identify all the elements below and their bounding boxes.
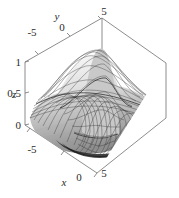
y-tick-mark-0: [67, 33, 70, 36]
x-tick-label--5: -5: [27, 143, 37, 155]
z-axis-group: 1 0.5 0 z: [7, 56, 29, 131]
x-tick-label-0: 0: [76, 171, 82, 183]
y-tick-label-0: 0: [59, 21, 65, 33]
x-axis-label: x: [61, 176, 67, 188]
box-edge-top-right-back: [102, 18, 166, 63]
z-tick-mark-0.5: [25, 92, 29, 93]
plot-canvas: 1 0.5 0 z -5 0 5 y -5 0 5 x: [0, 0, 179, 198]
x-tick-mark--5: [27, 128, 30, 132]
y-tick-label--5: -5: [27, 26, 37, 38]
z-tick-label-0: 0: [16, 119, 22, 131]
z-axis-label: z: [11, 88, 17, 100]
surface-plot-figure: 1 0.5 0 z -5 0 5 y -5 0 5 x: [0, 0, 179, 198]
y-axis-group: -5 0 5 y: [27, 5, 107, 54]
y-tick-label-5: 5: [101, 5, 107, 17]
y-tick-mark--5: [35, 51, 38, 54]
z-tick-label-1: 1: [16, 56, 22, 68]
z-tick-mark-1: [25, 61, 29, 62]
y-axis-label: y: [54, 10, 60, 22]
x-tick-mark-0: [61, 151, 64, 155]
x-tick-mark-5: [94, 173, 97, 177]
x-tick-label-5: 5: [101, 167, 107, 179]
z-tick-mark-0: [25, 124, 29, 125]
